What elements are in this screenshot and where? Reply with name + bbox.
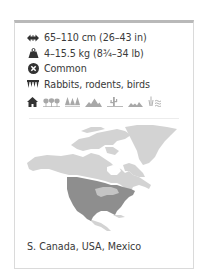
fact-diet: Rabbits, rodents, birds (27, 77, 187, 93)
wetland-icon (148, 96, 163, 107)
desert-cactus-icon (107, 97, 123, 107)
urban-house-icon (27, 97, 38, 107)
diet-text: Rabbits, rodents, birds (44, 79, 150, 90)
facts-list: 65–110 cm (26–43 in) 4–15.5 kg (8¾–34 lb… (27, 30, 187, 107)
fact-length: 65–110 cm (26–43 in) (27, 30, 187, 46)
mountains-icon (85, 98, 102, 107)
divider (29, 118, 179, 119)
coniferous-forest-icon (65, 97, 80, 107)
weight-icon (27, 48, 39, 58)
status-cross-circle-icon (27, 64, 39, 74)
status-text: Common (44, 63, 87, 74)
fact-status: Common (27, 61, 187, 77)
length-arrows-icon (27, 33, 39, 43)
north-america-range-map (21, 123, 189, 235)
weight-text: 4–15.5 kg (8¾–34 lb) (44, 48, 144, 59)
diet-teeth-icon (27, 79, 39, 89)
habitat-icons (27, 93, 187, 107)
species-fact-card: 65–110 cm (26–43 in) 4–15.5 kg (8¾–34 lb… (14, 20, 194, 269)
fact-weight: 4–15.5 kg (8¾–34 lb) (27, 46, 187, 62)
length-text: 65–110 cm (26–43 in) (44, 32, 147, 43)
region-text: S. Canada, USA, Mexico (27, 241, 141, 252)
grassland-icon (128, 100, 143, 107)
deciduous-forest-icon (43, 98, 60, 107)
